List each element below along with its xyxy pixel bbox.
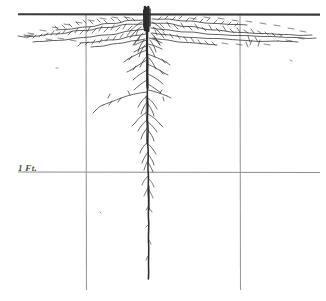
root-system-drawing	[0, 0, 326, 301]
right-grid-line	[240, 14, 241, 290]
left-grid-line	[86, 14, 87, 290]
figure-background	[0, 0, 326, 301]
depth-label-one-foot: 1 Ft.	[18, 163, 37, 173]
root-system-figure: 1 Ft.	[0, 0, 326, 301]
